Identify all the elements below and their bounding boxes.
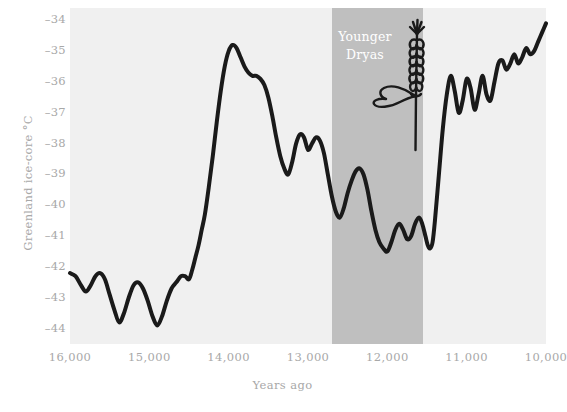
x-tick-label: 14,000 [207, 352, 250, 364]
younger-dryas-label-line1: Younger [322, 28, 408, 46]
x-tick-label: 15,000 [128, 352, 171, 364]
x-axis-title: Years ago [0, 378, 565, 392]
x-tick-label: 10,000 [525, 352, 567, 364]
x-tick-label: 11,000 [445, 352, 488, 364]
y-axis-title: Greenland ice-core °C [21, 93, 35, 273]
y-tick-label: –34 [22, 15, 66, 27]
x-tick-label: 13,000 [287, 352, 330, 364]
y-tick-label: –44 [22, 323, 66, 335]
x-tick-label: 12,000 [366, 352, 409, 364]
y-tick-label: –36 [22, 76, 66, 88]
plot-area [70, 8, 546, 344]
y-tick-label: –35 [22, 45, 66, 57]
x-tick-label: 16,000 [49, 352, 92, 364]
y-tick-label: –43 [22, 292, 66, 304]
younger-dryas-label: Younger Dryas [322, 28, 408, 64]
younger-dryas-label-line2: Dryas [322, 46, 408, 64]
